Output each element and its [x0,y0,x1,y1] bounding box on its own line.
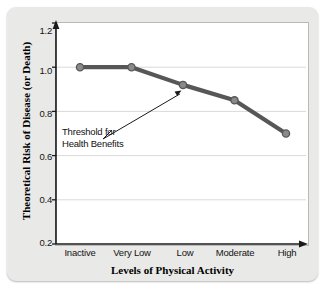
y-axis-arrow-icon [53,20,60,29]
chart-figure: 1.2 1.0 0.8 0.6 0.4 0.2 Inactive Very Lo… [0,0,329,299]
chart-svg [0,0,329,299]
x-axis-arrow-icon [299,241,308,248]
data-point-marker [282,130,289,137]
data-point-markers [76,64,289,137]
axis-lines [53,20,308,247]
data-point-marker [76,64,83,71]
risk-line-series [80,67,286,133]
data-point-marker [231,97,238,104]
data-point-marker [179,81,186,88]
annotation-leader-line [103,94,180,139]
data-point-marker [128,64,135,71]
